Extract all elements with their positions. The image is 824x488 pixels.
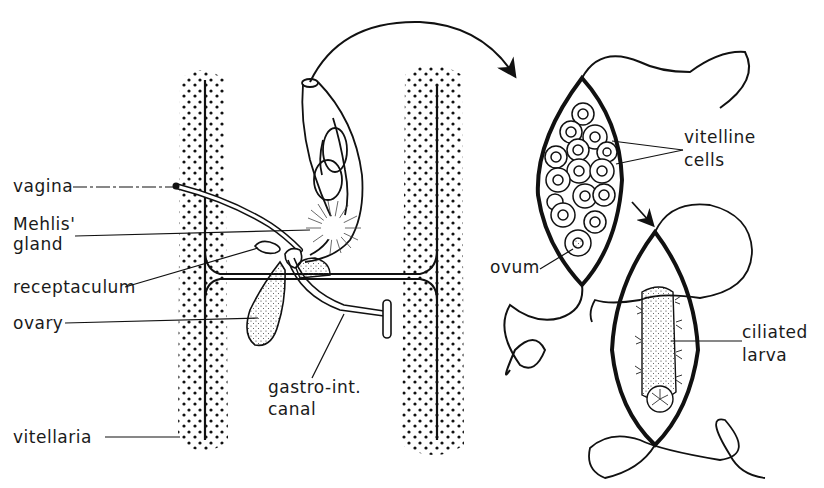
left-vitellaria bbox=[178, 70, 228, 451]
leader-ovary bbox=[65, 318, 258, 323]
flatworm-reproductive-diagram bbox=[0, 0, 824, 488]
label-vagina: vagina bbox=[13, 176, 73, 196]
label-vitellaria: vitellaria bbox=[13, 427, 92, 447]
label-mehlis-gland-line2: gland bbox=[13, 234, 63, 254]
label-gastro-int-line2: canal bbox=[268, 399, 316, 419]
label-ciliated-larva-line2: larva bbox=[742, 345, 787, 365]
development-arrow bbox=[632, 202, 650, 222]
label-vitelline-cells-line1: vitelline bbox=[684, 127, 756, 147]
oviduct-stippled-region bbox=[296, 258, 330, 278]
label-ovum: ovum bbox=[490, 257, 540, 277]
right-vitellaria bbox=[402, 65, 464, 455]
label-mehlis-gland-line1: Mehlis' bbox=[13, 214, 75, 234]
leader-gastro bbox=[312, 314, 344, 378]
mehlis-gland bbox=[306, 201, 361, 254]
label-gastro-int-line1: gastro-int. bbox=[268, 377, 361, 397]
label-ovary: ovary bbox=[13, 313, 63, 333]
label-vitelline-cells-line2: cells bbox=[684, 150, 725, 170]
leader-vitelline-2 bbox=[616, 150, 683, 164]
label-receptaculum: receptaculum bbox=[13, 277, 136, 297]
leader-vitelline-1 bbox=[612, 141, 683, 150]
label-ciliated-larva-line1: ciliated bbox=[742, 322, 808, 342]
